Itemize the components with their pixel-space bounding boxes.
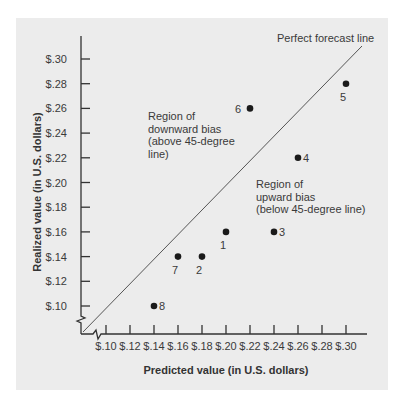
perfect-forecast-label: Perfect forecast line (277, 32, 374, 44)
x-tick-label: $.20 (215, 340, 236, 352)
x-tick-label: $.26 (287, 340, 308, 352)
data-point-7: 7 (172, 253, 181, 275)
x-tick-label: $.10 (95, 340, 116, 352)
y-tick-label: $.26 (46, 102, 67, 114)
point-label: 5 (340, 91, 346, 103)
perfect-forecast-line (83, 46, 362, 332)
y-tick-label: $.10 (46, 300, 67, 312)
downward-bias-annotation: Region of downward bias (above 45-degree… (148, 110, 238, 160)
y-tick-label: $.12 (46, 275, 67, 287)
x-tick-label: $.14 (143, 340, 164, 352)
x-tick-label: $.22 (239, 340, 260, 352)
point-marker (295, 155, 302, 162)
data-point-8: 8 (151, 300, 165, 312)
data-point-1: 1 (220, 229, 229, 251)
point-label: 4 (303, 152, 309, 164)
data-point-3: 3 (271, 226, 285, 238)
point-marker (223, 229, 230, 236)
point-label: 3 (279, 226, 285, 238)
point-label: 1 (220, 239, 226, 251)
y-tick-label: $.24 (46, 127, 67, 139)
point-label: 7 (172, 264, 178, 276)
data-point-5: 5 (340, 80, 349, 102)
y-tick-label: $.18 (46, 201, 67, 213)
point-marker (271, 229, 278, 236)
x-axis-title: Predicted value (in U.S. dollars) (143, 364, 308, 376)
point-marker (175, 253, 182, 260)
x-tick-label: $.24 (263, 340, 284, 352)
y-tick-label: $.14 (46, 251, 67, 263)
point-marker (199, 253, 206, 260)
point-marker (343, 80, 350, 87)
point-label: 6 (235, 103, 241, 115)
x-tick-label: $.16 (167, 340, 188, 352)
x-tick-label: $.28 (311, 340, 332, 352)
data-point-6: 6 (235, 103, 253, 115)
y-tick-label: $.20 (46, 177, 67, 189)
y-axis-line (77, 36, 85, 334)
x-tick-label: $.18 (191, 340, 212, 352)
x-ticks: $.10$.12$.14$.16$.18$.20$.22$.24$.26$.28… (95, 325, 356, 352)
point-label: 8 (159, 300, 165, 312)
x-tick-label: $.12 (119, 340, 140, 352)
point-marker (151, 303, 158, 310)
scatter-chart: $.10$.12$.14$.16$.18$.20$.22$.24$.26$.28… (0, 0, 407, 409)
y-tick-label: $.16 (46, 226, 67, 238)
y-axis-title: Realized value (in U.S. dollars) (31, 112, 43, 272)
upward-bias-annotation: Region of upward bias (below 45-degree l… (256, 178, 365, 215)
y-tick-label: $.28 (46, 78, 67, 90)
y-tick-label: $.30 (46, 53, 67, 65)
y-ticks: $.10$.12$.14$.16$.18$.20$.22$.24$.26$.28… (46, 53, 90, 312)
x-tick-label: $.30 (335, 340, 356, 352)
point-label: 2 (196, 264, 202, 276)
data-point-4: 4 (295, 152, 309, 164)
data-point-2: 2 (196, 253, 205, 275)
point-marker (247, 105, 254, 112)
x-axis-line (81, 330, 367, 339)
y-tick-label: $.22 (46, 152, 67, 164)
